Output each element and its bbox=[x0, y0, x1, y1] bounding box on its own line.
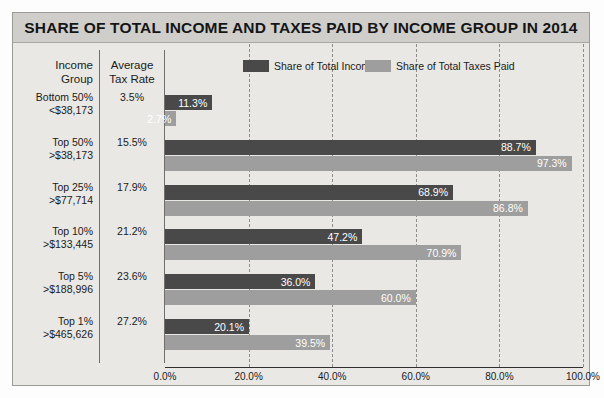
chart-legend: Share of Total Income Share of Total Tax… bbox=[165, 58, 583, 74]
bar-data-label: 60.0% bbox=[381, 292, 416, 304]
legend-label-income: Share of Total Income bbox=[274, 60, 376, 72]
x-tick-label: 80.0% bbox=[485, 371, 513, 382]
bar-data-label: 97.3% bbox=[537, 157, 572, 169]
x-tick-label: 60.0% bbox=[402, 371, 430, 382]
bar-group: 20.1%39.5% bbox=[165, 313, 583, 358]
bar-data-label: 86.8% bbox=[493, 202, 528, 214]
bar-share-of-total-taxes-paid[interactable]: 60.0% bbox=[165, 290, 416, 305]
x-tick-label: 40.0% bbox=[318, 371, 346, 382]
bar-group: 88.7%97.3% bbox=[165, 134, 583, 179]
bar-share-of-total-income[interactable]: 68.9% bbox=[165, 185, 453, 200]
x-tick-label: 100.0% bbox=[566, 371, 600, 382]
bar-share-of-total-taxes-paid[interactable]: 97.3% bbox=[165, 156, 572, 171]
bar-data-label: 47.2% bbox=[328, 231, 363, 243]
x-tick-label: 0.0% bbox=[154, 371, 177, 382]
chart-title-band: SHARE OF TOTAL INCOME AND TAXES PAID BY … bbox=[13, 13, 589, 43]
bar-share-of-total-taxes-paid[interactable]: 86.8% bbox=[165, 201, 528, 216]
header-average-tax-rate: Average Tax Rate bbox=[103, 58, 161, 86]
legend-swatch-income bbox=[243, 60, 269, 72]
plot-inner: Share of Total Income Share of Total Tax… bbox=[165, 44, 583, 367]
income-group-name: Top 50% bbox=[17, 136, 93, 149]
bar-share-of-total-taxes-paid[interactable]: 70.9% bbox=[165, 245, 461, 260]
income-group-threshold: >$38,173 bbox=[17, 149, 93, 162]
table-row: Top 1%>$465,62627.2% bbox=[13, 313, 165, 358]
bar-group: 36.0%60.0% bbox=[165, 268, 583, 313]
income-group-label: Top 50%>$38,173 bbox=[17, 136, 93, 162]
header-income-group-line1: Income bbox=[55, 59, 93, 71]
bar-share-of-total-taxes-paid[interactable]: 2.7% bbox=[165, 111, 176, 126]
bar-group: 68.9%86.8% bbox=[165, 179, 583, 224]
bar-share-of-total-income[interactable]: 36.0% bbox=[165, 274, 315, 289]
legend-swatch-taxes bbox=[365, 60, 391, 72]
income-group-threshold: >$188,996 bbox=[17, 283, 93, 296]
average-tax-rate-value: 17.9% bbox=[103, 181, 161, 193]
income-group-table: Income Group Average Tax Rate Bottom 50%… bbox=[13, 44, 165, 387]
income-group-threshold: >$77,714 bbox=[17, 194, 93, 207]
legend-item-share-of-total-taxes-paid: Share of Total Taxes Paid bbox=[365, 58, 515, 74]
chart-card: SHARE OF TOTAL INCOME AND TAXES PAID BY … bbox=[12, 12, 590, 386]
income-group-name: Top 10% bbox=[17, 225, 93, 238]
income-group-label: Top 1%>$465,626 bbox=[17, 315, 93, 341]
bar-share-of-total-income[interactable]: 11.3% bbox=[165, 95, 212, 110]
table-row: Top 10%>$133,44521.2% bbox=[13, 223, 165, 268]
income-group-label: Top 5%>$188,996 bbox=[17, 270, 93, 296]
legend-item-share-of-total-income: Share of Total Income bbox=[243, 58, 376, 74]
bar-data-label: 11.3% bbox=[178, 97, 212, 109]
income-group-label: Top 10%>$133,445 bbox=[17, 225, 93, 251]
income-group-label: Bottom 50%<$38,173 bbox=[17, 91, 93, 117]
bar-data-label: 2.7% bbox=[147, 113, 176, 125]
bar-data-label: 68.9% bbox=[418, 186, 453, 198]
x-tick-label: 20.0% bbox=[234, 371, 262, 382]
header-average-tax-rate-line1: Average bbox=[111, 59, 154, 71]
average-tax-rate-value: 27.2% bbox=[103, 315, 161, 327]
income-group-label: Top 25%>$77,714 bbox=[17, 181, 93, 207]
average-tax-rate-value: 23.6% bbox=[103, 270, 161, 282]
income-group-name: Top 1% bbox=[17, 315, 93, 328]
bar-data-label: 88.7% bbox=[501, 141, 536, 153]
table-row: Top 50%>$38,17315.5% bbox=[13, 134, 165, 179]
bar-share-of-total-taxes-paid[interactable]: 39.5% bbox=[165, 335, 330, 350]
bar-share-of-total-income[interactable]: 20.1% bbox=[165, 319, 249, 334]
bar-data-label: 39.5% bbox=[295, 337, 330, 349]
header-average-tax-rate-line2: Tax Rate bbox=[109, 73, 154, 85]
header-income-group: Income Group bbox=[23, 58, 93, 86]
income-group-name: Top 25% bbox=[17, 181, 93, 194]
income-group-name: Top 5% bbox=[17, 270, 93, 283]
bar-data-label: 20.1% bbox=[214, 321, 249, 333]
x-axis-line bbox=[165, 367, 583, 368]
bar-group: 47.2%70.9% bbox=[165, 223, 583, 268]
bar-data-label: 36.0% bbox=[281, 276, 316, 288]
table-row: Top 25%>$77,71417.9% bbox=[13, 179, 165, 224]
chart-title: SHARE OF TOTAL INCOME AND TAXES PAID BY … bbox=[24, 19, 577, 37]
table-row: Top 5%>$188,99623.6% bbox=[13, 268, 165, 313]
average-tax-rate-value: 3.5% bbox=[103, 91, 161, 103]
scanned-page: SHARE OF TOTAL INCOME AND TAXES PAID BY … bbox=[0, 0, 604, 398]
income-group-threshold: >$133,445 bbox=[17, 238, 93, 251]
plot-area: Share of Total Income Share of Total Tax… bbox=[165, 44, 589, 385]
average-tax-rate-value: 15.5% bbox=[103, 136, 161, 148]
income-group-threshold: <$38,173 bbox=[17, 104, 93, 117]
income-group-threshold: >$465,626 bbox=[17, 328, 93, 341]
income-group-name: Bottom 50% bbox=[17, 91, 93, 104]
header-income-group-line2: Group bbox=[61, 73, 93, 85]
average-tax-rate-value: 21.2% bbox=[103, 225, 161, 237]
table-row: Bottom 50%<$38,1733.5% bbox=[13, 89, 165, 134]
bar-share-of-total-income[interactable]: 88.7% bbox=[165, 140, 536, 155]
bar-share-of-total-income[interactable]: 47.2% bbox=[165, 229, 362, 244]
bar-data-label: 70.9% bbox=[427, 247, 462, 259]
legend-label-taxes: Share of Total Taxes Paid bbox=[396, 60, 515, 72]
gridline-100-0% bbox=[583, 44, 584, 367]
bar-group: 11.3%2.7% bbox=[165, 89, 583, 134]
